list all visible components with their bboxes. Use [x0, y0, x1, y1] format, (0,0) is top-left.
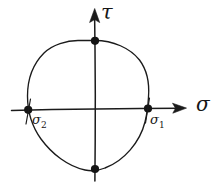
- sigma-1-label: σ1: [150, 113, 165, 130]
- tau-axis-label: τ: [101, 2, 113, 23]
- mohr-circle-figure: τ σ σ2 σ1: [0, 0, 224, 190]
- bottom-point-marker: [91, 165, 99, 173]
- sigma-axis-label: σ: [196, 94, 210, 114]
- sigma-1-label-subscript: 1: [159, 120, 165, 130]
- mohr-circle-drawing: [0, 0, 224, 190]
- sigma-2-label-subscript: 2: [41, 120, 47, 130]
- mohr-circle-outline: [28, 41, 149, 171]
- sigma-1-label-symbol: σ: [150, 112, 159, 127]
- top-point-marker: [91, 37, 99, 45]
- sigma-axis-line: [12, 108, 182, 110]
- sigma-2-label-symbol: σ: [32, 112, 41, 127]
- sigma-2-label: σ2: [32, 113, 47, 130]
